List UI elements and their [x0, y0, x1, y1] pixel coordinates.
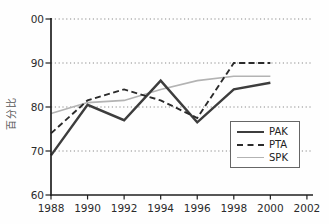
x-tick-label: 1992 — [111, 202, 138, 214]
y-tick-label: 90 — [31, 57, 44, 69]
x-tick-label: 2002 — [294, 202, 321, 214]
x-tick-label: 1988 — [38, 202, 65, 214]
legend-item-spk: SPK — [237, 152, 299, 164]
legend-item-pta: PTA — [237, 139, 299, 151]
legend-item-pak: PAK — [237, 126, 299, 138]
x-tick-label: 1990 — [74, 202, 101, 214]
x-tick-label: 1994 — [147, 202, 174, 214]
x-tick-label: 1998 — [220, 202, 247, 214]
pta-line-sample-icon — [237, 144, 264, 146]
legend-label-pta: PTA — [269, 140, 287, 150]
spk-line-sample-icon — [237, 157, 264, 158]
y-axis-title: 百分比 — [3, 76, 17, 150]
y-tick-label: 80 — [31, 101, 44, 113]
y-tick-label: 70 — [31, 145, 44, 157]
line-chart-canvas: 6070809000198819901992199419961998200020… — [0, 0, 329, 224]
x-tick-label: 2000 — [257, 202, 284, 214]
chart-figure: 6070809000198819901992199419961998200020… — [0, 0, 329, 224]
y-tick-label: 00 — [31, 13, 44, 25]
x-tick-label: 1996 — [184, 202, 211, 214]
legend-label-pak: PAK — [269, 127, 288, 137]
legend-label-spk: SPK — [269, 153, 288, 163]
pak-line-sample-icon — [237, 131, 264, 133]
legend-box: PAK PTA SPK — [230, 121, 300, 168]
y-tick-label: 60 — [31, 189, 44, 201]
